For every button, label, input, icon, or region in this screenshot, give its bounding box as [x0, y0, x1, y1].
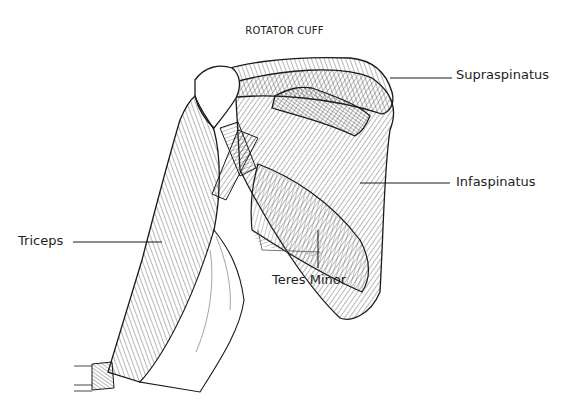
triceps-muscle	[108, 96, 244, 392]
label-triceps: Triceps	[18, 233, 63, 248]
elbow	[74, 362, 114, 391]
label-infraspinatus: Infaspinatus	[456, 174, 536, 189]
label-teres-minor: Teres Minor	[272, 272, 346, 287]
rotator-cuff-illustration	[0, 0, 569, 411]
label-supraspinatus: Supraspinatus	[456, 67, 549, 82]
